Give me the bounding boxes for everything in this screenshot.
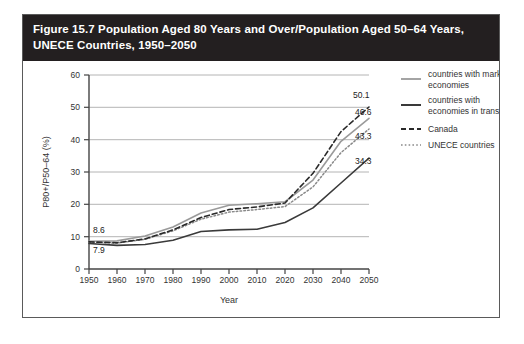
data-label-market-start: 8.6 [93,225,105,235]
legend-label-canada: Canada [428,124,458,134]
x-tick-label-2010: 2010 [248,275,267,285]
data-label-canada-end: 50.1 [353,90,370,100]
y-tick-labels: 60 50 40 30 20 10 0 [71,70,81,274]
figure-title-line-2: UNECE Countries, 1950–2050 [33,38,489,54]
legend-label-transition-line2: economies in translation [428,106,499,116]
figure-title: Figure 15.7 Population Aged 80 Years and… [23,15,499,61]
legend: countries with market economies countrie… [401,69,499,150]
legend-label-market-line2: economies [428,80,469,90]
y-tick-marks [84,75,89,269]
series-line-canada [89,107,369,243]
series-line-transition [89,158,369,245]
series-lines [89,107,369,245]
figure-container: Figure 15.7 Population Aged 80 Years and… [22,14,500,318]
figure-title-line-1: Figure 15.7 Population Aged 80 Years and… [33,22,489,38]
y-tick-label-0: 0 [75,264,80,274]
y-tick-label-50: 50 [71,102,81,112]
y-tick-label-10: 10 [71,232,81,242]
y-tick-label-30: 30 [71,167,81,177]
data-label-market-end: 46.6 [355,107,372,117]
series-line-market [89,118,369,241]
y-axis-title: P80+/P50–64 (%) [41,136,51,207]
series-line-unece [89,129,369,243]
x-tick-label-1970: 1970 [136,275,155,285]
x-tick-marks [89,269,369,274]
x-tick-label-2050: 2050 [360,275,379,285]
x-tick-label-2000: 2000 [220,275,239,285]
legend-label-transition-line1: countries with [428,95,480,105]
x-tick-label-1960: 1960 [108,275,127,285]
x-tick-label-2040: 2040 [332,275,351,285]
legend-label-market-line1: countries with market [428,69,499,79]
y-tick-label-20: 20 [71,199,81,209]
x-tick-label-1950: 1950 [80,275,99,285]
data-label-transition-end: 34.3 [355,156,372,166]
y-tick-label-60: 60 [71,70,81,80]
x-tick-label-1990: 1990 [192,275,211,285]
x-tick-label-1980: 1980 [164,275,183,285]
legend-label-unece: UNECE countries [428,140,495,150]
data-label-transition-start: 7.9 [93,245,105,255]
y-tick-label-40: 40 [71,135,81,145]
x-tick-label-2020: 2020 [276,275,295,285]
line-chart: 60 50 40 30 20 10 0 P80+/P50–64 (%) [23,61,499,309]
plot-area: 60 50 40 30 20 10 0 P80+/P50–64 (%) [23,61,499,309]
x-axis-title: Year [220,295,238,305]
x-tick-label-2030: 2030 [304,275,323,285]
x-tick-labels: 1950 1960 1970 1980 1990 2000 2010 2020 … [80,275,379,285]
data-label-unece-end: 43.3 [355,131,372,141]
